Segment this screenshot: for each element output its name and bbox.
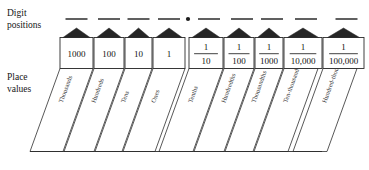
box-roofs-group — [63, 28, 360, 38]
box-roof-5 — [192, 28, 220, 38]
place-value-denominator-6: 100 — [232, 56, 246, 66]
box-roof-7 — [258, 28, 281, 38]
place-value-diagram-canvas: ThousandsHundredsTensOnesTenthsHundredth… — [0, 0, 369, 170]
place-value-denominator-9: 100,000 — [329, 56, 359, 66]
place-value-text-3: 10 — [134, 49, 144, 59]
box-roof-4 — [156, 28, 182, 38]
place-value-text-1: 1000 — [68, 49, 87, 59]
decimal-point-group — [186, 17, 190, 21]
place-value-numerator-5: 1 — [204, 42, 209, 52]
place-value-text-4: 1 — [167, 49, 172, 59]
place-value-denominator-5: 10 — [202, 56, 212, 66]
place-value-denominator-8: 10,000 — [291, 56, 316, 66]
box-roof-1 — [63, 28, 90, 38]
place-value-numerator-7: 1 — [267, 42, 272, 52]
box-roof-8 — [287, 28, 318, 38]
place-value-numerator-9: 1 — [341, 42, 346, 52]
place-value-numerator-8: 1 — [301, 42, 306, 52]
place-value-numerator-6: 1 — [237, 42, 242, 52]
place-value-chart: Digit positions Place values ThousandsHu… — [0, 0, 369, 170]
box-roof-9 — [328, 28, 360, 38]
box-roof-2 — [97, 28, 122, 38]
box-roof-3 — [127, 28, 149, 38]
place-value-denominator-7: 1000 — [260, 56, 279, 66]
place-value-text-2: 100 — [102, 49, 116, 59]
decimal-point-icon — [186, 17, 190, 21]
box-roof-6 — [227, 28, 252, 38]
